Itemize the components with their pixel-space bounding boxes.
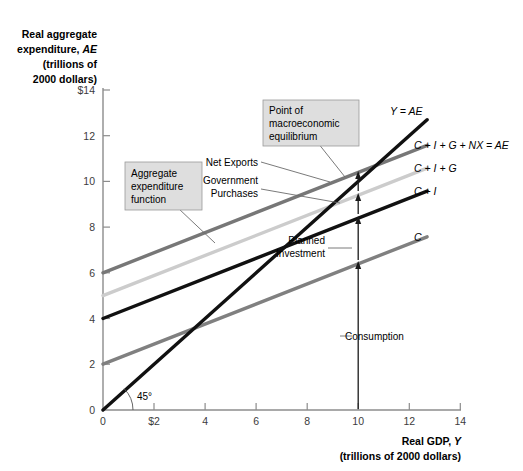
- y-tick-label-6: 2: [89, 358, 95, 370]
- x-axis-title-line-1: Real GDP, Y: [402, 435, 462, 447]
- callout-equilibrium-line-3: equilibrium: [269, 131, 317, 142]
- curve-label-ci: C + I: [414, 185, 437, 197]
- x-tick-label-7: 14: [454, 415, 466, 427]
- leader-government-purchases: [261, 189, 340, 203]
- y-tick-label-5: 4: [89, 313, 95, 325]
- y-tick-label-1: 12: [83, 130, 95, 142]
- x-axis-title: Real GDP, Y (trillions of 2000 dollars): [340, 435, 462, 462]
- callout-aggregate-expenditure-function: Aggregate expenditure function: [125, 162, 202, 210]
- curve-label-cig: C + I + G: [414, 162, 457, 174]
- label-net-exports: Net Exports: [206, 157, 258, 168]
- angle-label: 45°: [137, 391, 152, 402]
- callout-equilibrium-line-2: macroeconomic: [269, 118, 340, 129]
- component-arrows: [355, 171, 361, 409]
- x-tick-label-4: 8: [304, 415, 310, 427]
- callout-equilibrium-line-1: Point of: [269, 105, 303, 116]
- leader-equilibrium: [318, 143, 345, 177]
- callout-aggregate-expenditure-line-1: Aggregate: [131, 168, 178, 179]
- leader-net-exports: [261, 162, 330, 182]
- label-government-purchases-line-2: Purchases: [211, 188, 258, 199]
- y-axis-title-line-2a: expenditure,: [17, 43, 82, 55]
- label-consumption: Consumption: [345, 331, 404, 342]
- x-tick-label-0: 0: [100, 415, 106, 427]
- callout-aggregate-expenditure-line-3: function: [131, 194, 166, 205]
- curve-label-c: C: [414, 231, 422, 243]
- curve-label-cignx: C + I + G + NX = AE: [414, 139, 510, 151]
- y-axis-title-line-2b: AE: [81, 43, 98, 55]
- callout-aggregate-expenditure-line-2: expenditure: [131, 181, 184, 192]
- x-tick-label-6: 12: [403, 415, 415, 427]
- x-axis-title-line-1a: Real GDP,: [402, 435, 454, 447]
- y-axis-title-line-2: expenditure, AE: [17, 43, 98, 55]
- x-tick-label-5: 10: [352, 415, 364, 427]
- y-tick-label-0: $14: [77, 84, 95, 96]
- y-axis-tick-labels: $14 12 10 8 6 4 2 0: [77, 84, 95, 416]
- callout-point-of-macroeconomic-equilibrium: Point of macroeconomic equilibrium: [263, 100, 359, 146]
- y-axis-title-line-3: (trillions of: [43, 58, 98, 70]
- aggregate-expenditure-chart: Real aggregate expenditure, AE (trillion…: [0, 0, 523, 471]
- y-tick-label-7: 0: [89, 404, 95, 416]
- curve-label-y-equals-ae: Y = AE: [390, 105, 423, 117]
- label-planned-investment-line-1: Planned: [288, 235, 325, 246]
- y-axis-title: Real aggregate expenditure, AE (trillion…: [17, 28, 98, 85]
- x-axis-title-line-1b: Y: [454, 435, 462, 447]
- label-planned-investment-line-2: Investment: [276, 248, 325, 259]
- x-tick-label-2: 4: [202, 415, 208, 427]
- x-axis-title-line-2: (trillions of 2000 dollars): [340, 450, 461, 462]
- y-tick-label-2: 10: [83, 175, 95, 187]
- x-axis-tick-labels: 0 $2 4 6 8 10 12 14: [100, 415, 466, 427]
- y-axis-ticks: [103, 90, 110, 364]
- label-government-purchases-line-1: Government: [203, 175, 258, 186]
- y-axis-title-line-1: Real aggregate: [22, 28, 97, 40]
- x-tick-label-1: $2: [148, 415, 160, 427]
- x-axis-ticks: [154, 403, 460, 410]
- y-tick-label-3: 8: [89, 221, 95, 233]
- y-tick-label-4: 6: [89, 267, 95, 279]
- x-tick-label-3: 6: [253, 415, 259, 427]
